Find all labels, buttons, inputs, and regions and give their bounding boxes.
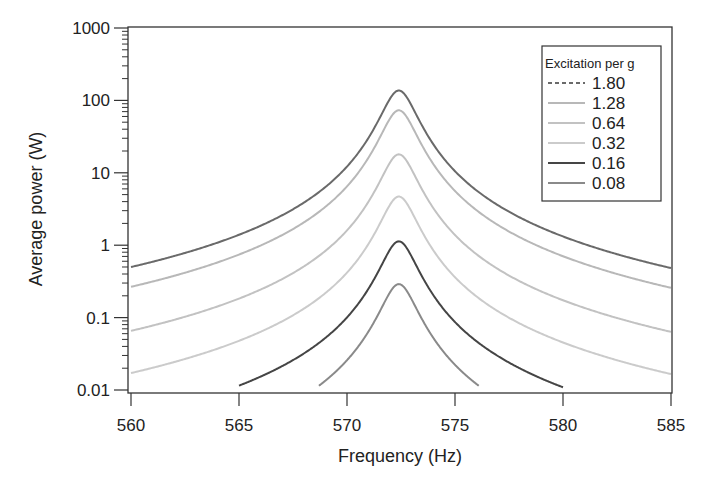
legend-label: 0.32 xyxy=(592,134,625,153)
legend-label: 0.64 xyxy=(592,114,625,133)
y-axis: 0.010.11101001000 xyxy=(72,19,128,400)
x-tick-label: 565 xyxy=(225,416,253,435)
y-tick-label: 0.1 xyxy=(86,309,110,328)
legend-label: 0.08 xyxy=(592,174,625,193)
x-axis-title: Frequency (Hz) xyxy=(338,446,462,466)
y-axis-title: Average power (W) xyxy=(26,132,46,287)
legend: Excitation per g 1.801.280.640.320.160.0… xyxy=(542,46,661,201)
y-tick-label: 10 xyxy=(91,164,110,183)
x-tick-label: 585 xyxy=(657,416,685,435)
power-vs-frequency-chart: 0.010.11101001000 560565570575580585 Fre… xyxy=(0,0,707,493)
legend-label: 0.16 xyxy=(592,154,625,173)
x-axis: 560565570575580585 xyxy=(117,393,685,435)
legend-title: Excitation per g xyxy=(545,56,635,71)
y-tick-label: 1000 xyxy=(72,19,110,38)
legend-label: 1.80 xyxy=(592,74,625,93)
x-tick-label: 570 xyxy=(333,416,361,435)
series-curve-0_16 xyxy=(239,241,563,387)
y-tick-label: 1 xyxy=(101,236,110,255)
legend-label: 1.28 xyxy=(592,94,625,113)
x-tick-label: 560 xyxy=(117,416,145,435)
x-tick-label: 580 xyxy=(549,416,577,435)
y-tick-label: 0.01 xyxy=(77,381,110,400)
y-tick-label: 100 xyxy=(82,91,110,110)
series-curve-0_08 xyxy=(319,284,479,386)
x-tick-label: 575 xyxy=(441,416,469,435)
